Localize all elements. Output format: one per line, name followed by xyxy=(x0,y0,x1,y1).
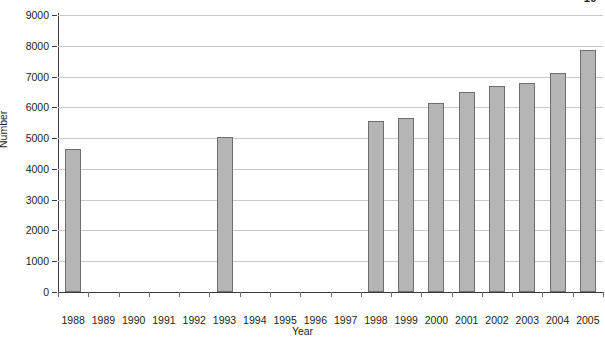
x-axis-tick-mark xyxy=(603,292,604,297)
bar xyxy=(65,149,81,292)
x-axis-tick-mark xyxy=(179,292,180,297)
bar xyxy=(580,50,596,292)
page-header-fragment: 10 xyxy=(584,0,597,2)
bar xyxy=(368,121,384,292)
bar xyxy=(459,92,475,292)
y-axis-tick: 1000 xyxy=(58,261,59,262)
y-axis-tick: 4000 xyxy=(58,169,59,170)
y-axis-tick-label: 8000 xyxy=(26,41,49,52)
x-axis-tick-mark xyxy=(482,292,483,297)
y-axis-tick-label: 9000 xyxy=(26,10,49,21)
bar xyxy=(550,73,566,292)
x-axis-tick-mark xyxy=(391,292,392,297)
y-axis-label: Number xyxy=(0,111,9,148)
y-axis-tick-mark xyxy=(52,230,57,231)
x-axis-tick-mark xyxy=(542,292,543,297)
y-axis-tick-mark xyxy=(52,200,57,201)
bar xyxy=(398,118,414,292)
x-axis-tick-mark xyxy=(88,292,89,297)
x-axis-tick-mark xyxy=(512,292,513,297)
gridline xyxy=(58,46,603,47)
bar xyxy=(428,103,444,292)
y-axis-tick-label: 0 xyxy=(43,287,49,298)
bar xyxy=(217,137,233,292)
gridline xyxy=(58,15,603,16)
y-axis-tick: 8000 xyxy=(58,46,59,47)
x-axis-tick-mark xyxy=(361,292,362,297)
y-axis-tick-label: 1000 xyxy=(26,256,49,267)
x-axis-tick-mark xyxy=(452,292,453,297)
x-axis-tick-mark xyxy=(573,292,574,297)
bar-chart-figure: 10 Number 010002000300040005000600070008… xyxy=(0,0,605,343)
y-axis-tick-label: 2000 xyxy=(26,225,49,236)
x-axis-label: Year xyxy=(0,325,605,337)
y-axis-tick-mark xyxy=(52,77,57,78)
y-axis-tick-mark xyxy=(52,107,57,108)
x-axis-tick-mark xyxy=(300,292,301,297)
y-axis-tick: 6000 xyxy=(58,107,59,108)
y-axis-tick-label: 3000 xyxy=(26,194,49,205)
x-axis-tick-mark xyxy=(119,292,120,297)
y-axis-tick-label: 7000 xyxy=(26,71,49,82)
x-axis-tick-mark xyxy=(58,292,59,297)
y-axis-tick-label: 4000 xyxy=(26,164,49,175)
y-axis-tick-label: 5000 xyxy=(26,133,49,144)
y-axis-tick-mark xyxy=(52,261,57,262)
bar xyxy=(519,83,535,292)
x-axis-tick-mark xyxy=(240,292,241,297)
x-axis-tick-mark xyxy=(270,292,271,297)
x-axis-tick-mark xyxy=(331,292,332,297)
plot-area: 0100020003000400050006000700080009000 19… xyxy=(58,15,603,292)
y-axis-tick-mark xyxy=(52,292,57,293)
y-axis-tick: 7000 xyxy=(58,77,59,78)
bar xyxy=(489,86,505,292)
x-axis-tick-mark xyxy=(209,292,210,297)
y-axis-tick-mark xyxy=(52,169,57,170)
y-axis-tick: 5000 xyxy=(58,138,59,139)
x-axis-tick-mark xyxy=(149,292,150,297)
y-axis-tick: 2000 xyxy=(58,230,59,231)
y-axis-tick-mark xyxy=(52,138,57,139)
y-axis-tick: 3000 xyxy=(58,200,59,201)
x-axis-tick-mark xyxy=(421,292,422,297)
y-axis-tick-mark xyxy=(52,46,57,47)
gridline xyxy=(58,77,603,78)
y-axis-tick-label: 6000 xyxy=(26,102,49,113)
y-axis-tick: 9000 xyxy=(58,15,59,16)
y-axis-tick-mark xyxy=(52,15,57,16)
